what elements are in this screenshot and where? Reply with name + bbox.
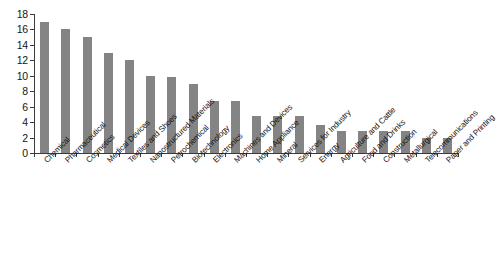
y-axis-tick xyxy=(30,60,34,61)
y-axis-tick xyxy=(30,138,34,139)
y-axis-tick xyxy=(30,122,34,123)
x-axis-tick xyxy=(34,153,35,157)
y-axis-tick-label: 2 xyxy=(22,132,28,143)
y-axis-tick xyxy=(30,91,34,92)
y-axis-tick-label: 14 xyxy=(17,40,28,51)
y-axis-tick xyxy=(30,107,34,108)
y-axis-tick-label: 12 xyxy=(17,55,28,66)
y-axis-tick-label: 0 xyxy=(22,148,28,159)
y-axis-tick-label: 6 xyxy=(22,101,28,112)
bar xyxy=(40,22,49,153)
y-axis-tick-label: 16 xyxy=(17,24,28,35)
y-axis-tick-label: 10 xyxy=(17,71,28,82)
y-axis-tick-label: 8 xyxy=(22,86,28,97)
y-axis-tick-label: 18 xyxy=(17,9,28,20)
y-axis-tick xyxy=(30,29,34,30)
y-axis-tick-label: 4 xyxy=(22,117,28,128)
y-axis-tick xyxy=(30,45,34,46)
y-axis-tick xyxy=(30,76,34,77)
y-axis-tick xyxy=(30,14,34,15)
